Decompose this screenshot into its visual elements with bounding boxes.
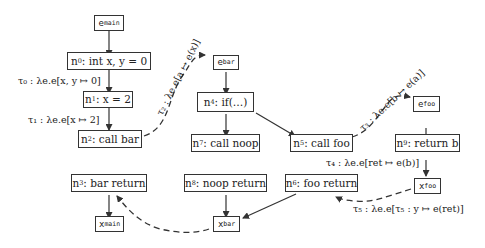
label-tau0: τ₀ : λe.e[x, y ↦ 0] (18, 75, 101, 86)
node-e-main: emain (94, 15, 124, 31)
node-n9: n9 : return b (395, 134, 460, 152)
node-n1: n1 : x = 2 (83, 91, 133, 108)
label-tau4: τ₄ : λe.e[ret ↦ e(b)] (326, 157, 419, 168)
node-n5: n5 : call foo (290, 134, 353, 152)
node-x-main: xmain (95, 216, 124, 232)
node-n8: n8 : noop return (184, 174, 267, 192)
node-n4: n4 : if(…) (197, 92, 254, 112)
edge-n6-xbar (243, 194, 296, 218)
node-n3: n3 : bar return (71, 174, 147, 192)
node-n7: n7 : call noop (191, 134, 260, 152)
node-x-foo: xfoo (414, 178, 441, 194)
node-n0: n0 : int x, y = 0 (67, 52, 151, 70)
node-n6: n6 : foo return (285, 174, 358, 192)
node-x-bar: xbar (213, 216, 240, 232)
label-tau1: τ₁ : λe.e[x ↦ 2] (28, 114, 99, 125)
label-tau5: τ₅ : λe.e[τ₅ : y ↦ e(ret)] (353, 203, 464, 214)
node-e-bar: ebar (213, 55, 239, 70)
node-e-foo: efoo (413, 96, 440, 112)
node-n2: n2 : call bar (78, 130, 142, 148)
edge-xbar-n3-dashed (117, 196, 209, 232)
edge-n4-n5 (256, 113, 295, 136)
